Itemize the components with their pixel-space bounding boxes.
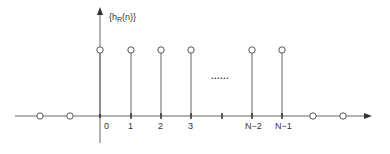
ellipsis: ...... <box>211 71 229 81</box>
stem-label: 1 <box>128 121 133 131</box>
stem-n3: 3 <box>188 47 194 131</box>
stem-n1: 1 <box>128 47 134 131</box>
stem-n-minus-2: N−2 <box>245 47 262 131</box>
stem-n2: 2 <box>158 47 164 131</box>
sequence-label: {hR(n)} <box>109 12 136 23</box>
stem-label: N−2 <box>245 121 262 131</box>
n-axis-arrow-icon <box>364 113 372 119</box>
zero-sample-left <box>37 113 43 119</box>
zero-sample-left <box>67 113 73 119</box>
rectangular-window-sequence-plot: {hR(n)} 0 1 2 3 N−2 N−1 ...... <box>0 0 390 154</box>
stem-n0: 0 <box>97 47 109 131</box>
stem-label: 3 <box>188 121 193 131</box>
stem-n-minus-1: N−1 <box>275 47 292 131</box>
zero-sample-right <box>340 113 346 119</box>
stem-label: N−1 <box>275 121 292 131</box>
zero-sample-right <box>310 113 316 119</box>
stem-label: 2 <box>158 121 163 131</box>
amplitude-axis-arrow-icon <box>97 7 103 15</box>
stem-label: 0 <box>104 121 109 131</box>
